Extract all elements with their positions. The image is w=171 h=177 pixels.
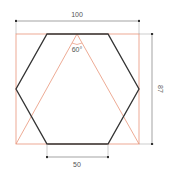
width-dimension <box>15 19 140 34</box>
side-dimension <box>46 144 109 159</box>
hexagon-diagram: 100 60° 50 87 <box>0 0 171 177</box>
height-label: 87 <box>157 85 164 93</box>
side-label: 50 <box>73 161 81 168</box>
height-dimension <box>139 33 154 145</box>
width-label: 100 <box>71 11 83 18</box>
angle-label: 60° <box>72 46 83 53</box>
angle-arc <box>72 43 82 45</box>
